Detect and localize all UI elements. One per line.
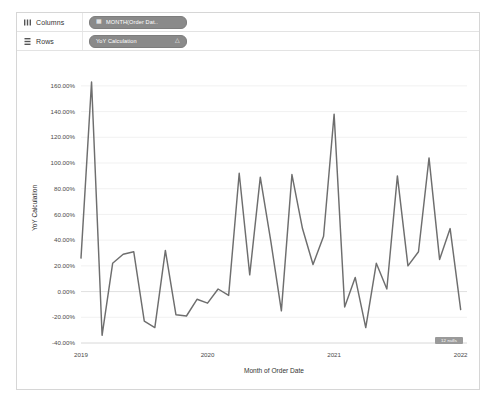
svg-text:2020: 2020 xyxy=(201,351,215,358)
null-indicator-badge[interactable]: 12 nulls xyxy=(435,337,463,344)
svg-text:20.00%: 20.00% xyxy=(54,262,75,269)
null-indicator-label: 12 nulls xyxy=(441,338,457,343)
pill-yoy-calculation-label: YoY Calculation xyxy=(96,38,137,44)
chart-svg: 160.00%140.00%120.00%100.00%80.00%60.00%… xyxy=(17,51,481,391)
svg-text:Month of Order Date: Month of Order Date xyxy=(244,367,304,374)
tableau-worksheet-panel: Columns ▦ MONTH(Order Dat.. Rows YoY Cal… xyxy=(16,12,480,390)
svg-text:100.00%: 100.00% xyxy=(51,159,76,166)
columns-shelf[interactable]: Columns ▦ MONTH(Order Dat.. xyxy=(17,13,479,32)
rows-shelf-label: Rows xyxy=(17,32,83,50)
pill-yoy-calculation[interactable]: YoY Calculation △ xyxy=(89,35,187,48)
svg-text:0.00%: 0.00% xyxy=(57,288,75,295)
line-chart: 160.00%140.00%120.00%100.00%80.00%60.00%… xyxy=(17,51,479,389)
calendar-icon: ▦ xyxy=(96,19,102,25)
svg-text:2021: 2021 xyxy=(327,351,341,358)
svg-text:80.00%: 80.00% xyxy=(54,185,75,192)
svg-text:2022: 2022 xyxy=(454,351,468,358)
rows-shelf-dropzone[interactable]: YoY Calculation △ xyxy=(83,32,479,50)
svg-text:2019: 2019 xyxy=(74,351,88,358)
rows-icon xyxy=(24,38,31,45)
svg-text:160.00%: 160.00% xyxy=(51,82,76,89)
columns-shelf-label: Columns xyxy=(17,13,83,31)
svg-text:-40.00%: -40.00% xyxy=(52,339,76,346)
svg-text:60.00%: 60.00% xyxy=(54,211,75,218)
chart-canvas: 160.00%140.00%120.00%100.00%80.00%60.00%… xyxy=(17,50,479,389)
rows-shelf-title: Rows xyxy=(36,38,54,45)
svg-text:YoY Calculation: YoY Calculation xyxy=(31,185,38,232)
pill-month-order-date[interactable]: ▦ MONTH(Order Dat.. xyxy=(89,16,187,29)
columns-shelf-title: Columns xyxy=(36,19,64,26)
delta-icon: △ xyxy=(175,38,180,44)
columns-icon xyxy=(24,19,31,26)
svg-text:120.00%: 120.00% xyxy=(51,133,76,140)
svg-text:140.00%: 140.00% xyxy=(51,108,76,115)
rows-shelf[interactable]: Rows YoY Calculation △ xyxy=(17,32,479,51)
svg-text:-20.00%: -20.00% xyxy=(52,313,76,320)
pill-month-order-date-label: MONTH(Order Dat.. xyxy=(106,19,158,25)
columns-shelf-dropzone[interactable]: ▦ MONTH(Order Dat.. xyxy=(83,13,479,31)
svg-text:40.00%: 40.00% xyxy=(54,236,75,243)
